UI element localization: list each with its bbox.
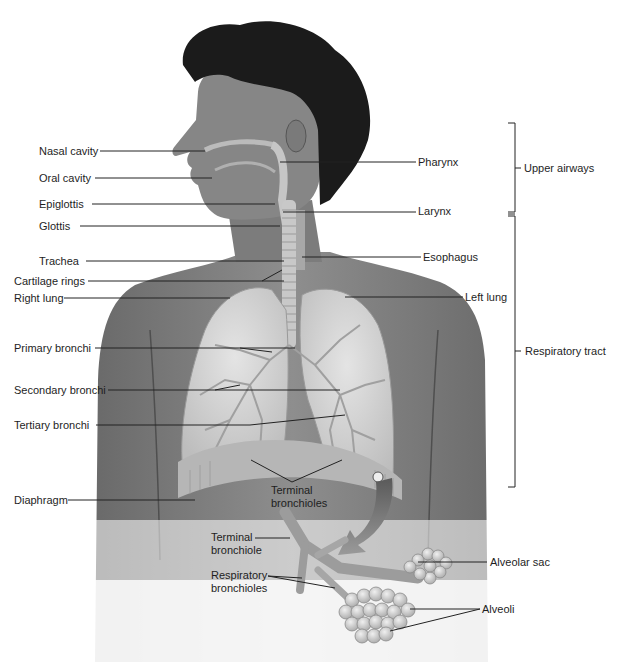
label-terminal-bronchioles: Terminal bronchioles [271,484,327,510]
label-epiglottis: Epiglottis [39,198,84,211]
ear [286,120,306,152]
label-line: Respiratory [211,569,267,582]
label-secondary-bronchi: Secondary bronchi [14,384,106,397]
label-respiratory-bronchioles: Respiratory bronchioles [211,569,267,595]
label-alveoli: Alveoli [482,603,514,616]
label-primary-bronchi: Primary bronchi [14,342,91,355]
label-alveolar-sac: Alveolar sac [490,556,550,569]
label-glottis: Glottis [39,220,70,233]
label-right-lung: Right lung [14,292,64,305]
respiratory-diagram: Nasal cavity Oral cavity Epiglottis Glot… [0,0,619,662]
label-line: bronchioles [271,497,327,510]
label-oral-cavity: Oral cavity [39,172,91,185]
label-tertiary-bronchi: Tertiary bronchi [14,419,89,432]
label-diaphragm: Diaphragm [14,494,68,507]
label-cartilage-rings: Cartilage rings [14,275,85,288]
label-upper-airways: Upper airways [524,162,594,175]
label-esophagus: Esophagus [423,251,478,264]
label-trachea: Trachea [39,255,79,268]
label-respiratory-tract: Respiratory tract [525,345,606,358]
label-nasal-cavity: Nasal cavity [39,145,98,158]
label-left-lung: Left lung [465,291,507,304]
label-line: bronchiole [211,544,262,557]
label-pharynx: Pharynx [418,156,458,169]
label-larynx: Larynx [418,205,451,218]
label-terminal-bronchiole: Terminal bronchiole [211,531,262,557]
label-line: Terminal [271,484,327,497]
label-line: bronchioles [211,582,267,595]
label-line: Terminal [211,531,262,544]
